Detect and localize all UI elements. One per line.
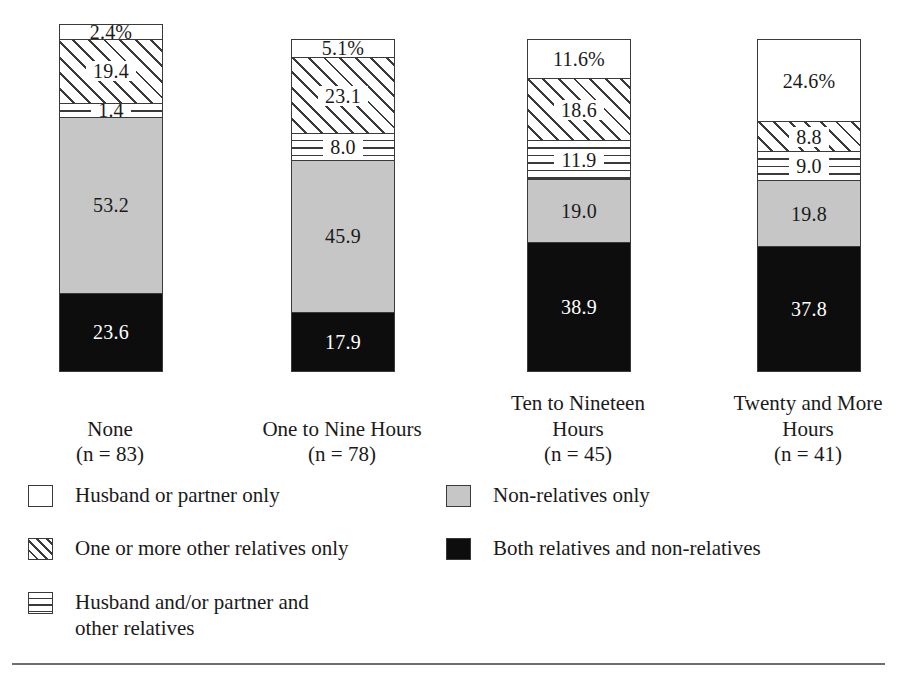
stacked-bar: 11.6%18.611.919.038.9: [527, 39, 631, 372]
bar-segment: 18.6: [528, 78, 630, 140]
segment-value-label: 8.0: [323, 137, 363, 157]
stacked-bar-chart: 2.4%19.41.453.223.6None(n = 83)5.1%23.18…: [0, 0, 897, 470]
legend-item[interactable]: Both relatives and non-relatives: [446, 535, 876, 561]
legend-swatch-icon: [28, 592, 53, 614]
segment-value-label: 9.0: [789, 156, 829, 176]
category-label: None(n = 83): [22, 417, 198, 468]
legend-label: Non-relatives only: [493, 482, 650, 508]
bar-segment: 37.8: [758, 246, 860, 371]
segment-value-label: 38.9: [561, 297, 597, 317]
bar-segment: 38.9: [528, 242, 630, 371]
segment-value-label: 19.8: [791, 204, 827, 224]
legend-item[interactable]: Husband or partner only: [28, 482, 448, 508]
segment-value-label: 19.0: [561, 201, 597, 221]
bar-segment: 11.9: [528, 140, 630, 179]
category-sample-size: (n = 45): [490, 442, 666, 468]
segment-value-label: 23.1: [318, 86, 368, 106]
segment-value-label: 23.6: [93, 322, 129, 342]
segment-value-label: 17.9: [325, 332, 361, 352]
legend-label: Husband and/or partner and other relativ…: [75, 589, 309, 642]
bar-segment: 24.6%: [758, 40, 860, 121]
legend-label: Husband or partner only: [75, 482, 280, 508]
segment-value-label: 18.6: [554, 100, 604, 120]
bar-segment: 2.4%: [60, 25, 162, 39]
segment-value-label: 24.6%: [783, 71, 836, 91]
bar-segment: 11.6%: [528, 40, 630, 78]
category-sample-size: (n = 41): [720, 442, 896, 468]
legend-label: One or more other relatives only: [75, 535, 349, 561]
segment-value-label: 1.4: [91, 103, 131, 117]
segment-value-label: 8.8: [789, 127, 829, 147]
category-name: One to Nine Hours: [262, 417, 421, 441]
segment-value-label: 11.9: [554, 150, 603, 170]
category-label: One to Nine Hours(n = 78): [254, 417, 430, 468]
bar-segment: 23.1: [292, 57, 394, 133]
segment-value-label: 11.6%: [553, 49, 605, 69]
segment-value-label: 53.2: [93, 195, 129, 215]
legend-label: Both relatives and non-relatives: [493, 535, 761, 561]
legend-swatch-icon: [28, 538, 53, 560]
legend-item[interactable]: One or more other relatives only: [28, 535, 448, 561]
category-sample-size: (n = 83): [22, 442, 198, 468]
segment-value-label: 19.4: [86, 61, 136, 81]
category-name: None: [87, 417, 133, 441]
segment-value-label: 2.4%: [90, 25, 132, 39]
legend-column-left: Husband or partner onlyOne or more other…: [28, 482, 448, 668]
bar-segment: 1.4: [60, 103, 162, 117]
category-name: Twenty and More Hours: [734, 391, 883, 441]
category-name: Ten to Nineteen Hours: [511, 391, 645, 441]
chart-legend: Husband or partner onlyOne or more other…: [0, 482, 897, 642]
bar-segment: 17.9: [292, 312, 394, 371]
legend-swatch-icon: [28, 485, 53, 507]
category-label: Ten to Nineteen Hours(n = 45): [490, 391, 666, 468]
legend-swatch-icon: [446, 538, 471, 560]
bar-segment: 19.0: [528, 179, 630, 242]
category-sample-size: (n = 78): [254, 442, 430, 468]
legend-item[interactable]: Husband and/or partner and other relativ…: [28, 589, 448, 642]
bar-segment: 19.8: [758, 180, 860, 246]
segment-value-label: 45.9: [325, 226, 361, 246]
legend-item[interactable]: Non-relatives only: [446, 482, 876, 508]
bar-segment: 5.1%: [292, 40, 394, 57]
stacked-bar: 24.6%8.89.019.837.8: [757, 39, 861, 372]
bottom-rule-divider: [12, 663, 885, 665]
bar-segment: 23.6: [60, 293, 162, 371]
legend-swatch-icon: [446, 485, 471, 507]
segment-value-label: 5.1%: [322, 40, 364, 57]
category-label: Twenty and More Hours(n = 41): [720, 391, 896, 468]
bar-segment: 19.4: [60, 39, 162, 103]
legend-column-right: Non-relatives onlyBoth relatives and non…: [446, 482, 876, 589]
bar-segment: 53.2: [60, 117, 162, 293]
stacked-bar: 2.4%19.41.453.223.6: [59, 24, 163, 372]
bar-segment: 8.0: [292, 133, 394, 159]
bar-segment: 45.9: [292, 160, 394, 312]
bar-segment: 9.0: [758, 151, 860, 181]
bar-segment: 8.8: [758, 121, 860, 150]
stacked-bar: 5.1%23.18.045.917.9: [291, 39, 395, 372]
segment-value-label: 37.8: [791, 299, 827, 319]
